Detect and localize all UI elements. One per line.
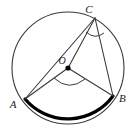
segment-oc	[68, 18, 95, 68]
circle-geometry-figure: A B C O	[0, 0, 137, 132]
vertex-label-o: O	[58, 55, 65, 66]
segment-ob	[68, 68, 113, 96]
vertex-label-c: C	[85, 3, 93, 15]
central-angle-aob-mark	[54, 78, 85, 85]
segment-cb	[95, 18, 113, 96]
inscribed-angle-acb-mark	[86, 32, 104, 36]
geometry-canvas: A B C O	[0, 0, 137, 132]
vertex-label-a: A	[9, 98, 17, 110]
vertex-label-b: B	[119, 92, 126, 104]
center-point-dot	[65, 65, 70, 70]
